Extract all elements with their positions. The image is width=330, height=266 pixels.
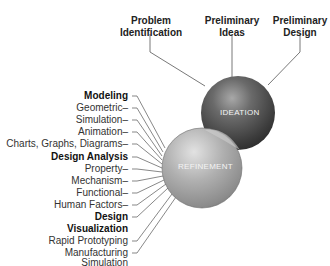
refinement-label: REFINEMENT xyxy=(178,162,233,171)
label-line: Design xyxy=(270,27,330,39)
label-modeling: Modeling xyxy=(84,90,128,102)
label-rapid-prototyping: Rapid Prototyping xyxy=(49,235,129,247)
diagram-graphics xyxy=(0,0,330,266)
label-design-analysis: Design Analysis xyxy=(51,151,128,163)
label-line: Preliminary xyxy=(270,15,330,27)
label-functional: Functional– xyxy=(76,187,128,199)
ideation-label: IDEATION xyxy=(220,108,260,117)
label-preliminary-ideas: Preliminary Ideas xyxy=(202,15,262,39)
label-line: Problem xyxy=(110,15,192,27)
label-manufacturing-simulation: Simulation xyxy=(81,257,128,266)
label-charts-graphs-diagrams: Charts, Graphs, Diagrams– xyxy=(6,138,128,150)
label-human-factors: Human Factors– xyxy=(54,199,128,211)
label-problem-identification: Problem Identification xyxy=(110,15,192,39)
label-geometric: Geometric– xyxy=(76,102,128,114)
label-property: Property– xyxy=(85,163,128,175)
label-mechanism: Mechanism– xyxy=(71,175,128,187)
label-animation: Animation– xyxy=(78,126,128,138)
label-simulation: Simulation– xyxy=(76,114,128,126)
label-line: Ideas xyxy=(202,27,262,39)
label-line: Identification xyxy=(110,27,192,39)
top-connector-lines xyxy=(150,34,300,86)
label-preliminary-design: Preliminary Design xyxy=(270,15,330,39)
label-visualization: Visualization xyxy=(67,223,128,235)
design-process-diagram: Problem Identification Preliminary Ideas… xyxy=(0,0,330,266)
label-line: Preliminary xyxy=(202,15,262,27)
label-design: Design xyxy=(95,211,128,223)
